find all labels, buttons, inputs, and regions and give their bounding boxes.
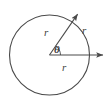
geometry-figure: r r r θ [0,0,110,100]
angle-label-theta: θ [54,44,60,55]
radius-label-upper: r [44,27,48,38]
radius-label-lower: r [62,62,66,73]
radius-label-right: r [82,25,86,36]
